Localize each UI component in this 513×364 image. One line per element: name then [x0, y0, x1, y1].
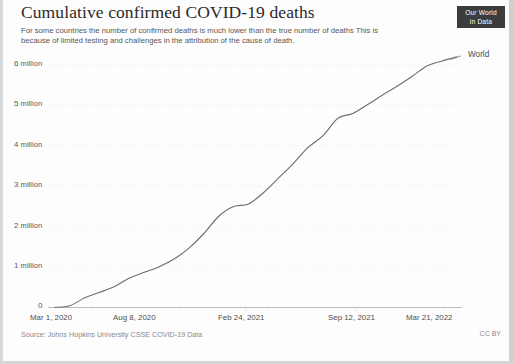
- x-axis-ticks: [70, 308, 444, 312]
- y-tick-2m-unit: million: [21, 221, 43, 230]
- y-tick-5m-value: 5: [14, 99, 18, 108]
- x-tick-aug-8-2020: Aug 8, 2020: [113, 313, 156, 322]
- chart-license: CC BY: [480, 330, 501, 337]
- grid-lines: [48, 65, 462, 267]
- world-deaths-line: [55, 57, 457, 308]
- y-tick-3m-unit: million: [21, 180, 43, 189]
- x-tick-mar-21-2022: Mar 21, 2022: [406, 313, 453, 322]
- y-tick-3m-value: 3: [14, 180, 18, 189]
- y-tick-5m: 5 million: [14, 99, 42, 108]
- y-tick-0-value: 0: [38, 301, 42, 310]
- y-tick-5m-unit: million: [21, 99, 43, 108]
- chart-plot-area: [0, 0, 513, 364]
- y-tick-6m-unit: million: [21, 59, 43, 68]
- line-chart-svg: [0, 0, 513, 364]
- chart-sheet: Cumulative confirmed COVID-19 deaths For…: [0, 0, 513, 364]
- series-label-world: World: [468, 50, 489, 59]
- y-tick-2m: 2 million: [14, 221, 42, 230]
- y-tick-1m-value: 1: [14, 261, 18, 270]
- x-tick-mar-1-2020: Mar 1, 2020: [30, 313, 72, 322]
- y-tick-6m-value: 6: [14, 59, 18, 68]
- chart-source: Source: Johns Hopkins University CSSE CO…: [21, 330, 202, 339]
- y-tick-4m-unit: million: [21, 140, 43, 149]
- x-tick-feb-24-2021: Feb 24, 2021: [218, 313, 265, 322]
- y-tick-4m: 4 million: [14, 140, 42, 149]
- y-tick-1m: 1 million: [14, 261, 42, 270]
- x-tick-sep-12-2021: Sep 12, 2021: [328, 313, 375, 322]
- y-tick-0: 0: [38, 301, 42, 310]
- y-tick-1m-unit: million: [21, 261, 43, 270]
- y-tick-4m-value: 4: [14, 140, 18, 149]
- y-tick-2m-value: 2: [14, 221, 18, 230]
- y-tick-6m: 6 million: [14, 59, 42, 68]
- y-tick-3m: 3 million: [14, 180, 42, 189]
